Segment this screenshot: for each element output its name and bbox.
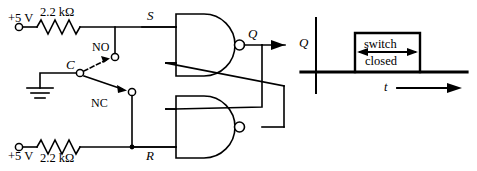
switch-no-contact bbox=[111, 53, 118, 60]
node-q-label: Q bbox=[248, 27, 257, 40]
nand-gate-top-bubble bbox=[235, 40, 245, 50]
timing-annotation-line2: closed bbox=[365, 55, 397, 68]
nand-gate-bottom-bubble bbox=[235, 122, 245, 132]
switch-nc-label: NC bbox=[91, 97, 108, 109]
node-r-label: R bbox=[146, 149, 154, 162]
switch-blade-nc-solid bbox=[84, 76, 122, 89]
supply-top-label: +5 V bbox=[8, 12, 33, 25]
supply-bottom-label: +5 V bbox=[8, 150, 33, 163]
node-s-label: S bbox=[147, 9, 154, 22]
arrowhead-span-right bbox=[407, 48, 418, 56]
switch-no-label: NO bbox=[92, 41, 109, 53]
switch-common-label: C bbox=[66, 58, 75, 71]
figure-root: +5 V 2.2 kΩ +5 V 2.2 kΩ C NO NC S R Q Q … bbox=[0, 0, 477, 171]
switch-common-pivot bbox=[76, 69, 83, 76]
timing-annotation-line1: switch bbox=[364, 38, 397, 51]
switch-blade-no-dashed bbox=[84, 60, 106, 71]
resistor-top bbox=[37, 20, 80, 34]
switch-nc-contact bbox=[128, 88, 135, 95]
timing-y-axis-label: Q bbox=[299, 36, 308, 49]
nand-gate-bottom-body bbox=[176, 96, 235, 158]
arrowhead-t-axis bbox=[447, 83, 462, 93]
wire-ground-to-common bbox=[40, 73, 77, 88]
resistor-bottom-label: 2.2 kΩ bbox=[40, 152, 74, 165]
feedback-qbar-to-top-gate bbox=[166, 63, 284, 86]
circuit-and-timing-drawing bbox=[0, 0, 477, 171]
arrowhead-q-output bbox=[271, 40, 285, 50]
arrowhead-nc bbox=[117, 85, 127, 93]
timing-x-axis-label: t bbox=[384, 81, 387, 94]
resistor-top-label: 2.2 kΩ bbox=[40, 6, 74, 19]
